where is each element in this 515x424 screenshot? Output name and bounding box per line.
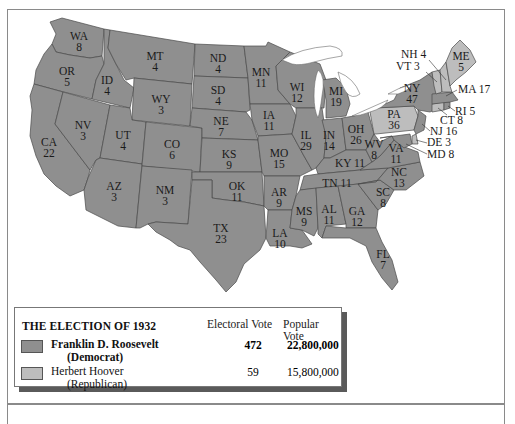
svg-text:WI12: WI12 bbox=[290, 81, 305, 104]
electoral-vote-value: 59 bbox=[243, 366, 263, 378]
legend-box: THE ELECTION OF 1932 Electoral Vote Popu… bbox=[14, 307, 342, 387]
republican-swatch bbox=[21, 367, 43, 380]
legend-title: THE ELECTION OF 1932 bbox=[22, 320, 156, 332]
svg-text:IL29: IL29 bbox=[300, 129, 312, 152]
svg-text:VT 3: VT 3 bbox=[396, 60, 420, 72]
popular-vote-value: 15,800,000 bbox=[287, 366, 357, 378]
svg-text:PA36: PA36 bbox=[387, 108, 401, 131]
svg-text:IN14: IN14 bbox=[323, 129, 336, 152]
svg-text:MD 8: MD 8 bbox=[427, 148, 454, 160]
democrat-swatch bbox=[21, 340, 43, 353]
legend-row-hoover: Herbert Hoover (Republican) 59 15,800,00… bbox=[21, 365, 337, 393]
state-ri bbox=[444, 102, 450, 110]
svg-text:IA11: IA11 bbox=[263, 109, 276, 132]
legend-row-roosevelt: Franklin D. Roosevelt (Democrat) 472 22,… bbox=[21, 338, 337, 366]
svg-text:TN 11: TN 11 bbox=[322, 177, 352, 189]
popular-vote-value: 22,800,000 bbox=[287, 339, 357, 351]
svg-text:DE 3: DE 3 bbox=[427, 136, 451, 148]
electoral-vote-value: 472 bbox=[243, 339, 263, 351]
svg-text:MA 17: MA 17 bbox=[458, 83, 491, 95]
svg-text:LA10: LA10 bbox=[272, 227, 288, 250]
candidate-name: Herbert Hoover (Republican) bbox=[51, 365, 127, 391]
svg-text:KY 11: KY 11 bbox=[335, 157, 365, 169]
svg-text:MI19: MI19 bbox=[329, 85, 343, 108]
state-de bbox=[412, 134, 418, 144]
lake-superior bbox=[282, 46, 342, 65]
svg-text:AL11: AL11 bbox=[321, 203, 336, 226]
candidate-name: Franklin D. Roosevelt (Democrat) bbox=[51, 338, 159, 364]
electoral-vote-header: Electoral Vote bbox=[207, 318, 272, 330]
svg-text:NH 4: NH 4 bbox=[401, 48, 426, 60]
